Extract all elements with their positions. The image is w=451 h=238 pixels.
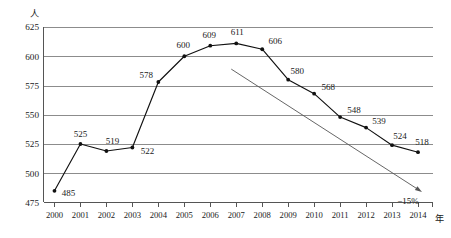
data-point-label: 539 <box>372 116 386 126</box>
x-axis-tick-label: 2012 <box>357 210 374 220</box>
x-axis-tick-label: 2014 <box>409 210 427 220</box>
x-axis-tick-label: 2007 <box>228 210 246 220</box>
data-point-label: 580 <box>290 66 304 76</box>
data-point-marker <box>286 78 290 82</box>
data-point-label: 606 <box>268 36 282 46</box>
x-axis-tick-label: 2000 <box>46 210 63 220</box>
x-axis-tick-label: 2001 <box>72 210 89 220</box>
x-axis-tick-label: 2009 <box>280 210 297 220</box>
x-axis-tick-label: 2010 <box>306 210 323 220</box>
data-point-marker <box>156 80 160 84</box>
data-point-marker <box>234 41 238 45</box>
data-point-label: 578 <box>140 70 154 80</box>
data-point-marker <box>182 54 186 58</box>
data-point-marker <box>390 143 394 147</box>
data-point-label: 524 <box>393 131 407 141</box>
y-axis-unit-label: 人 <box>30 9 39 19</box>
data-point-marker <box>312 92 316 96</box>
x-axis-tick-label: 2006 <box>202 210 220 220</box>
x-axis-tick-label: 2002 <box>98 210 115 220</box>
data-point-marker <box>338 115 342 119</box>
chart-container: 475500525550575600625 200020012002200320… <box>0 0 451 238</box>
data-point-marker <box>130 146 134 150</box>
y-axis-tick-label: 600 <box>25 52 39 62</box>
x-axis-tick-label: 2005 <box>176 210 193 220</box>
data-point-label: 522 <box>141 146 155 156</box>
x-axis-tick-label: 2004 <box>150 210 168 220</box>
data-point-marker <box>79 142 83 146</box>
data-point-label: 548 <box>347 105 361 115</box>
y-axis-tick-label: 625 <box>25 22 39 32</box>
data-point-label: 485 <box>62 188 76 198</box>
data-point-label: 600 <box>177 40 191 50</box>
data-point-label: 519 <box>106 136 120 146</box>
x-axis-tick-label: 2013 <box>383 210 400 220</box>
data-point-label: 609 <box>203 30 217 40</box>
data-point-marker <box>416 150 420 154</box>
trend-percent-label: −15% <box>397 196 419 206</box>
data-point-marker <box>105 149 109 153</box>
x-axis-unit-label: 年 <box>435 213 444 224</box>
x-axis-tick-label: 2008 <box>254 210 271 220</box>
data-point-marker <box>364 126 368 130</box>
x-axis-tick-label: 2003 <box>124 210 141 220</box>
data-point-label: 611 <box>231 27 244 37</box>
y-axis-tick-label: 500 <box>25 169 39 179</box>
line-chart: 475500525550575600625 200020012002200320… <box>0 0 451 238</box>
y-axis-tick-label: 550 <box>25 110 39 120</box>
y-axis-tick-label: 575 <box>25 81 39 91</box>
y-axis-tick-label: 475 <box>25 198 39 208</box>
x-axis-tick-labels: 2000200120022003200420052006200720082009… <box>46 210 427 220</box>
data-point-label: 568 <box>321 82 335 92</box>
data-point-marker <box>208 44 212 48</box>
y-axis-tick-label: 525 <box>25 139 39 149</box>
data-point-label: 525 <box>74 129 88 139</box>
data-point-label: 518 <box>415 137 429 147</box>
data-point-marker <box>260 47 264 51</box>
x-axis-tick-label: 2011 <box>332 210 349 220</box>
data-point-marker <box>53 189 57 193</box>
